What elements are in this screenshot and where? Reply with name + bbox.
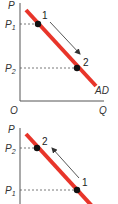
bottom-y-axis-label: P [8, 124, 15, 135]
top-curve-label: AD [94, 85, 109, 96]
top-panel: P P1 P2 1 2 AD O Q [5, 0, 109, 116]
bottom-point-1-label: 1 [82, 177, 88, 188]
bottom-point-2-label: 2 [42, 136, 48, 147]
bottom-ad-curve [26, 134, 92, 204]
bottom-point-1 [74, 187, 80, 193]
bottom-point-2 [34, 145, 40, 151]
top-x-axis-label: Q [99, 105, 107, 116]
top-p-lower-label: P2 [5, 63, 16, 75]
top-point-2-label: 2 [83, 57, 89, 68]
origin-label: O [10, 105, 18, 116]
bottom-p-lower-label: P1 [5, 185, 16, 197]
top-point-1 [35, 21, 41, 27]
bottom-panel: P P2 P1 2 1 [5, 124, 92, 204]
top-y-axis-label: P [8, 0, 15, 11]
bottom-p-upper-label: P2 [5, 143, 16, 155]
ad-diagrams: P P1 P2 1 2 AD O Q P P2 P1 2 1 [0, 0, 118, 204]
bottom-movement-arrow [52, 148, 79, 178]
top-point-1-label: 1 [42, 10, 48, 21]
top-p-upper-label: P1 [5, 19, 16, 31]
top-point-2 [74, 65, 80, 71]
